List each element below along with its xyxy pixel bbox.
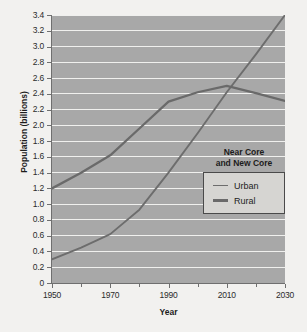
- x-tick-mark-major: [285, 284, 286, 288]
- y-tick-mark: [47, 188, 51, 189]
- legend-swatch-rural: [213, 199, 228, 202]
- y-tick-mark: [47, 236, 51, 237]
- x-tick-mark-minor: [139, 284, 140, 287]
- legend-swatch-urban: [213, 185, 228, 187]
- x-tick-label: 2030: [265, 290, 305, 300]
- y-tick-label: 0.6: [33, 230, 44, 240]
- x-tick-label: 1990: [149, 290, 189, 300]
- x-tick-label: 2010: [207, 290, 247, 300]
- y-tick-mark: [47, 251, 51, 252]
- y-tick-mark: [47, 141, 51, 142]
- y-tick-label: 2.0: [33, 120, 44, 130]
- chart-figure: 00.20.40.60.81.01.21.41.61.82.02.22.42.6…: [0, 0, 307, 332]
- y-tick-mark: [47, 125, 51, 126]
- legend-item-rural[interactable]: Rural: [204, 193, 284, 208]
- legend: Near Core and New Core UrbanRural: [196, 147, 292, 214]
- y-tick-label: 0.2: [33, 262, 44, 272]
- y-tick-label: 2.6: [33, 73, 44, 83]
- legend-label: Rural: [234, 196, 256, 206]
- x-tick-label: 1950: [32, 290, 72, 300]
- y-tick-label: 1.8: [33, 136, 44, 146]
- y-tick-mark: [47, 31, 51, 32]
- x-tick-mark-minor: [81, 284, 82, 287]
- y-tick-label: 1.4: [33, 167, 44, 177]
- y-tick-mark: [47, 267, 51, 268]
- y-tick-label: 1.2: [33, 183, 44, 193]
- x-tick-mark-major: [52, 284, 53, 288]
- legend-title-line-2: and New Core: [196, 158, 292, 169]
- y-tick-label: 0.4: [33, 246, 44, 256]
- legend-item-urban[interactable]: Urban: [204, 178, 284, 193]
- y-tick-mark: [47, 110, 51, 111]
- y-tick-mark: [47, 204, 51, 205]
- y-tick-mark: [47, 47, 51, 48]
- y-tick-mark: [47, 78, 51, 79]
- x-tick-mark-major: [169, 284, 170, 288]
- y-tick-label: 0.8: [33, 214, 44, 224]
- y-tick-label: 1.6: [33, 151, 44, 161]
- y-tick-label: 1.0: [33, 199, 44, 209]
- y-tick-mark: [47, 220, 51, 221]
- legend-title-line-1: Near Core: [196, 147, 292, 158]
- y-tick-label: 3.2: [33, 25, 44, 35]
- x-tick-label: 1970: [90, 290, 130, 300]
- y-tick-label: 0: [39, 278, 44, 288]
- y-tick-mark: [47, 62, 51, 63]
- y-tick-label: 3.0: [33, 41, 44, 51]
- line-series-urban: [52, 15, 285, 259]
- x-axis-title: Year: [52, 307, 285, 317]
- y-tick-label: 2.8: [33, 57, 44, 67]
- y-tick-label: 2.2: [33, 104, 44, 114]
- y-tick-mark: [47, 157, 51, 158]
- y-axis-title: Population (billions): [19, 62, 29, 202]
- y-tick-mark: [47, 94, 51, 95]
- y-tick-mark: [47, 15, 51, 16]
- x-tick-mark-major: [227, 284, 228, 288]
- y-tick-label: 3.4: [33, 10, 44, 20]
- y-tick-label: 2.4: [33, 88, 44, 98]
- x-tick-mark-major: [110, 284, 111, 288]
- legend-box: UrbanRural: [203, 172, 285, 214]
- x-tick-mark-minor: [256, 284, 257, 287]
- y-axis-line: [51, 15, 52, 284]
- legend-label: Urban: [234, 181, 259, 191]
- x-tick-mark-minor: [198, 284, 199, 287]
- y-tick-mark: [47, 173, 51, 174]
